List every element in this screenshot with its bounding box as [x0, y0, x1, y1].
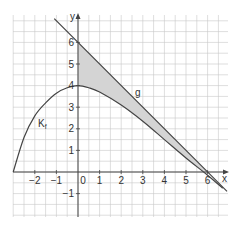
svg-text:3: 3 [140, 175, 146, 186]
svg-text:1: 1 [97, 175, 103, 186]
svg-text:−1: −1 [63, 188, 75, 199]
svg-text:5: 5 [183, 175, 189, 186]
y-axis-label: y [70, 11, 75, 22]
x-axis-label: x [222, 173, 227, 184]
line-g-label: g [135, 87, 141, 98]
svg-text:5: 5 [68, 59, 74, 70]
svg-text:0: 0 [80, 175, 86, 186]
line-g [54, 19, 227, 192]
svg-text:2: 2 [68, 123, 74, 134]
svg-text:2: 2 [118, 175, 124, 186]
svg-text:1: 1 [68, 145, 74, 156]
svg-text:−1: −1 [51, 175, 63, 186]
svg-text:6: 6 [205, 175, 211, 186]
svg-text:6: 6 [68, 37, 74, 48]
function-graph: −2−10123456−1123456 y x Kf g [0, 0, 241, 229]
svg-text:−2: −2 [29, 175, 41, 186]
svg-text:4: 4 [162, 175, 168, 186]
grid [13, 15, 228, 217]
svg-text:3: 3 [68, 102, 74, 113]
svg-text:4: 4 [68, 80, 74, 91]
